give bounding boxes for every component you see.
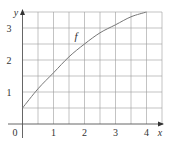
y-axis-label: y xyxy=(13,7,19,18)
x-axis-label: x xyxy=(157,127,163,138)
chart: 0 1 2 3 4 x 1 2 3 y f xyxy=(0,0,170,144)
axes xyxy=(8,9,164,138)
y-tick-1: 1 xyxy=(7,87,12,98)
x-tick-3: 3 xyxy=(113,127,118,138)
x-tick-4: 4 xyxy=(144,127,149,138)
curve-label: f xyxy=(74,30,79,42)
grid xyxy=(23,12,163,124)
y-tick-2: 2 xyxy=(7,55,12,66)
origin-label: 0 xyxy=(13,127,18,138)
x-tick-2: 2 xyxy=(82,127,87,138)
x-tick-1: 1 xyxy=(51,127,56,138)
y-tick-3: 3 xyxy=(7,23,12,34)
x-axis-arrow-icon xyxy=(158,122,164,127)
